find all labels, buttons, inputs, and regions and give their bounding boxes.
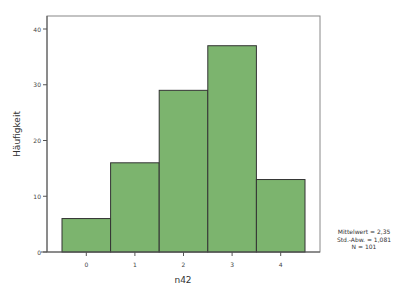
mean-label: Mittelwert = 2,35 <box>326 228 402 236</box>
n-label: N = 101 <box>326 243 402 251</box>
y-tick-label: 10 <box>33 193 41 200</box>
x-axis: 01234 <box>41 252 320 268</box>
y-tick-label: 40 <box>33 26 41 33</box>
bar-2 <box>159 90 208 252</box>
x-tick-label: 1 <box>133 261 137 268</box>
x-tick-label: 4 <box>279 261 283 268</box>
x-axis-label: n42 <box>174 275 191 285</box>
y-tick-label: 20 <box>33 137 41 144</box>
y-axis: 010203040 <box>33 16 47 256</box>
x-tick-label: 3 <box>230 261 234 268</box>
x-tick-label: 0 <box>84 261 88 268</box>
bar-1 <box>111 163 160 252</box>
y-tick-label: 0 <box>37 249 41 256</box>
bar-3 <box>208 46 257 252</box>
summary-statistics: Mittelwert = 2,35 Std.-Abw. = 1,081 N = … <box>326 228 402 251</box>
sd-label: Std.-Abw. = 1,081 <box>326 236 402 244</box>
bar-0 <box>62 219 111 252</box>
bars <box>62 46 305 252</box>
bar-4 <box>256 180 305 252</box>
y-tick-label: 30 <box>33 81 41 88</box>
x-tick-label: 2 <box>182 261 186 268</box>
y-axis-label: Häufigkeit <box>12 111 22 157</box>
